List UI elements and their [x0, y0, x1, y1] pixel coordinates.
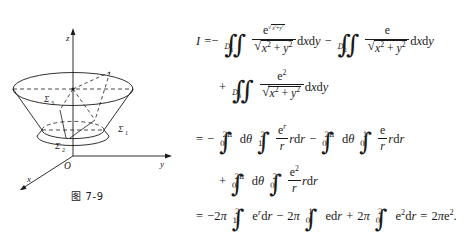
z-arrowhead — [71, 28, 76, 35]
sigma-2-glyph: Σ — [54, 141, 61, 151]
axis-arrowheads — [20, 28, 172, 190]
sigma-3-glyph: Σ — [43, 94, 50, 104]
r-integral-3: ∫02 — [269, 176, 282, 191]
theta-integral-1: ∫02π — [219, 134, 232, 149]
leader-to-top-rim — [73, 72, 110, 89]
y-arrowhead — [165, 154, 172, 159]
leader-generator — [95, 72, 110, 120]
r-integral-2: ∫01 — [359, 134, 372, 149]
double-integral-d3: ∬D3 — [232, 83, 254, 99]
r-integral-1: ∫12 — [257, 134, 270, 149]
equation-block: I=−∬D1 e√x2+y2 √x2 + y2 dxdy−∬D2 e √x2 +… — [196, 8, 470, 244]
cone-frustum-diagram: z y x O Σ 1 Σ 2 Σ 3 — [0, 10, 200, 190]
sigma-1-subscript: 1 — [125, 130, 128, 136]
x-axis-label: x — [26, 174, 31, 184]
sigma2-pointer-lines — [60, 110, 95, 138]
origin-label: O — [64, 161, 71, 171]
sigma-1-glyph: Σ — [117, 124, 124, 134]
sigma2-pointer-left — [60, 110, 66, 138]
sigma-3-subscript: 3 — [51, 100, 54, 106]
y-axis-label: y — [159, 159, 164, 169]
figure-panel: z y x O Σ 1 Σ 2 Σ 3 图 7-9 — [0, 0, 200, 244]
equation-line-2: +∬D3 e2 √x2 + y2 dxdy — [219, 70, 328, 101]
equation-line-5: =−2π∫12erdr−2π∫01edr+2π∫02e2dr=2πe2. — [196, 210, 457, 226]
bottom-right-tick — [104, 130, 109, 136]
sigma-1-label: Σ 1 — [117, 124, 128, 136]
z-axis-label: z — [65, 33, 70, 43]
equation-line-1: I=−∬D1 e√x2+y2 √x2 + y2 dxdy−∬D2 e √x2 +… — [196, 24, 434, 55]
integrand-1: e√x2+y2 √x2 + y2 — [252, 24, 296, 55]
integrand-5: e r — [378, 124, 387, 154]
integrand-6: e2 r — [288, 166, 301, 196]
sigma2-pointer-right — [70, 120, 95, 138]
sigma-2-subscript: 2 — [62, 147, 65, 153]
integrand-2: e √x2 + y2 — [365, 24, 409, 55]
double-integral-d2: ∬D2 — [338, 37, 360, 53]
top-center-point — [72, 88, 75, 91]
bottom-left-tick — [37, 130, 42, 136]
final-integral-3: ∫02 — [375, 211, 388, 226]
leader-to-sigma2-a — [60, 89, 73, 110]
integrand-3: e2 √x2 + y2 — [260, 70, 304, 101]
final-integral-1: ∫12 — [232, 211, 245, 226]
integrand-4: er r — [276, 124, 288, 154]
coordinate-axes — [23, 32, 168, 188]
final-integral-2: ∫01 — [305, 211, 318, 226]
double-integral-d1: ∬D1 — [224, 37, 246, 53]
sigma-2-label: Σ 2 — [54, 141, 65, 153]
equation-line-4: +∫02πdθ∫02 e2 r rdr — [219, 166, 318, 196]
equation-line-3: =−∫02πdθ∫12 er r rdr−∫02πdθ∫01 e r rdr — [196, 124, 404, 154]
theta-integral-2: ∫02π — [321, 134, 334, 149]
leader-lines — [60, 72, 110, 120]
figure-caption: 图 7-9 — [0, 188, 175, 203]
theta-integral-3: ∫02π — [231, 176, 244, 191]
